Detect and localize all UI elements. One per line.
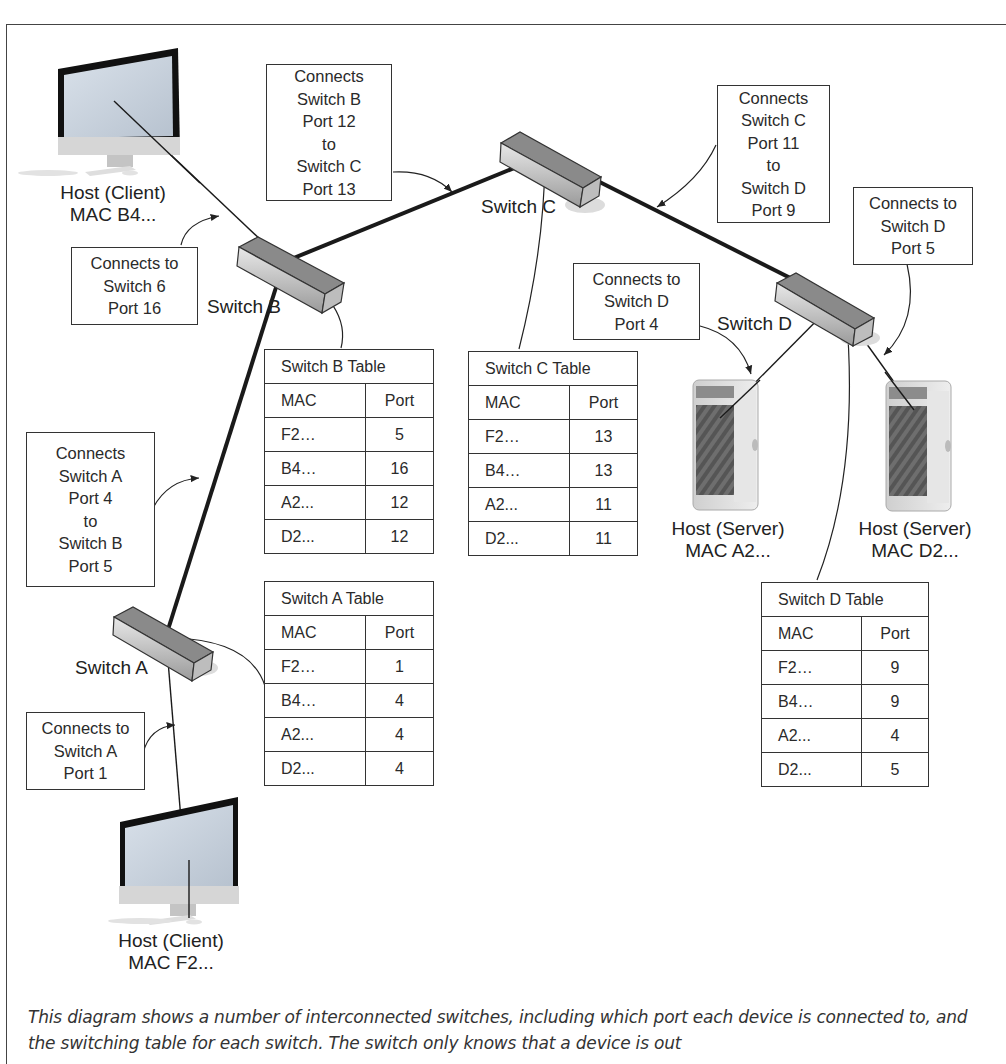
table-row: D2...4 [265, 752, 434, 786]
table-row: B4…16 [265, 452, 434, 486]
callout-switch-a-to-b: Connects Switch A Port 4 to Switch B Por… [26, 432, 155, 587]
figure-caption: This diagram shows a number of interconn… [28, 1004, 988, 1056]
table-row: B4…9 [762, 685, 929, 719]
callout-switch-d-port-4: Connects to Switch D Port 4 [573, 263, 700, 340]
callout-switch-b-to-c: Connects Switch B Port 12 to Switch C Po… [266, 64, 392, 201]
host-client-f2-label: Host (Client) MAC F2... [106, 930, 236, 974]
switch-d-icon [775, 273, 880, 346]
table-row: B4…13 [469, 454, 638, 488]
table-row: F2…5 [265, 418, 434, 452]
callout-switch-c-to-d: Connects Switch C Port 11 to Switch D Po… [717, 85, 830, 223]
table-row: A2...4 [265, 718, 434, 752]
table-row: D2...12 [265, 520, 434, 554]
imac-client-f2-icon [108, 797, 239, 925]
table-row: A2...11 [469, 488, 638, 522]
tower-server-d2-icon [886, 381, 951, 511]
table-row: D2...5 [762, 753, 929, 787]
callout-switch-b-port-16: Connects to Switch 6 Port 16 [71, 247, 198, 325]
host-server-a2-label: Host (Server) MAC A2... [663, 518, 793, 562]
tower-server-a2-icon [693, 380, 758, 510]
table-row: A2...12 [265, 486, 434, 520]
callout-switch-a-port-1: Connects to Switch A Port 1 [26, 712, 145, 790]
switch-d-label: Switch D [717, 313, 792, 335]
table-row: A2...4 [762, 719, 929, 753]
table-row: F2…13 [469, 420, 638, 454]
switch-a-label: Switch A [75, 657, 148, 679]
switch-c-label: Switch C [481, 196, 556, 218]
switch-b-label: Switch B [207, 296, 281, 318]
switch-c-table: Switch C Table MACPort F2…13 B4…13 A2...… [468, 351, 638, 556]
table-row: F2…9 [762, 651, 929, 685]
table-row: B4…4 [265, 684, 434, 718]
host-server-d2-label: Host (Server) MAC D2... [850, 518, 980, 562]
switch-d-table: Switch D Table MACPort F2…9 B4…9 A2...4 … [761, 582, 929, 787]
table-row: D2...11 [469, 522, 638, 556]
host-client-b4-label: Host (Client) MAC B4... [48, 182, 178, 226]
table-row: F2…1 [265, 650, 434, 684]
switch-a-table: Switch A Table MACPort F2…1 B4…4 A2...4 … [264, 581, 434, 786]
imac-client-b4-icon [18, 48, 180, 176]
callout-switch-d-port-5: Connects to Switch D Port 5 [853, 187, 973, 265]
switch-b-table: Switch B Table MACPort F2…5 B4…16 A2...1… [264, 349, 434, 554]
